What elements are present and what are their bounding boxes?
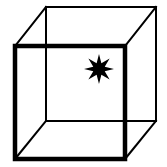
eight-pointed-star-icon (84, 54, 114, 84)
necker-cube-illustration (0, 0, 167, 167)
figure-canvas: Necker cube with an eight-pointed star i… (0, 0, 167, 167)
